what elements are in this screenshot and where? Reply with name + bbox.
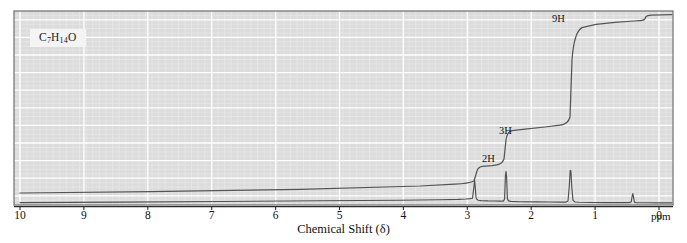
x-tick-label-2: 2 [518,210,544,222]
grid-layer [14,11,673,205]
x-tick-label-6: 6 [263,210,289,222]
x-tick-label-3: 3 [454,210,480,222]
x-axis-title: Chemical Shift (δ) [0,223,687,236]
x-tick-label-9: 9 [71,210,97,222]
peak-label-9h: 9H [552,14,565,25]
x-tick-label-7: 7 [199,210,225,222]
formula-c: C [39,31,47,43]
x-tick-label-1: 1 [582,210,608,222]
x-tick-label-8: 8 [135,210,161,222]
formula-c-count: 7 [47,36,51,45]
spectrum-canvas [0,0,687,243]
x-tick-label-4: 4 [390,210,416,222]
nmr-spectrum-figure: C7H14O 9H 3H 2H 10 9 8 7 6 5 4 3 2 1 0 p… [0,0,687,243]
x-axis-unit-label: ppm [651,211,671,222]
x-tick-label-10: 10 [7,210,33,222]
peak-label-2h: 2H [482,154,495,165]
x-tick-label-5: 5 [327,210,353,222]
formula-o: O [68,31,77,43]
molecular-formula-label: C7H14O [30,29,86,47]
formula-h-count: 14 [60,36,68,45]
formula-h: H [51,31,60,43]
peak-label-3h: 3H [499,126,512,137]
